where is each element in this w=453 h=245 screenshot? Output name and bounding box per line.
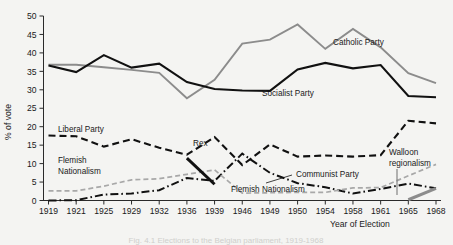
y-tick-label-40: 40 [27,48,37,58]
x-tick-label-1925: 1925 [94,206,113,216]
x-tick-label-1950: 1950 [288,206,307,216]
y-tick-label-50: 50 [27,11,37,21]
x-tick-label-1936: 1936 [177,206,196,216]
x-tick-label-1965: 1965 [399,206,418,216]
x-tick-label-1968: 1968 [426,206,445,216]
y-tick-label-45: 45 [27,30,37,40]
x-tick-label-1958: 1958 [343,206,362,216]
y-tick-label-5: 5 [32,177,37,187]
y-tick-label-20: 20 [27,122,37,132]
y-tick-label-0: 0 [32,196,37,206]
x-tick-label-1921: 1921 [67,206,86,216]
y-tick-label-25: 25 [27,103,37,113]
x-tick-label-1919: 1919 [39,206,58,216]
y-tick-label-10: 10 [27,159,37,169]
y-tick-label-35: 35 [27,67,37,77]
annotation-walloon-line1: Walloon [389,148,419,157]
figure-caption: Fig. 4.1 Elections to the Belgian parlia… [129,236,324,245]
annotation-flemish-nationalism-line1: Flemish [58,156,87,165]
y-tick-label-15: 15 [27,140,37,150]
x-tick-label-1949: 1949 [260,206,279,216]
x-tick-label-1954: 1954 [316,206,335,216]
election-line-chart: 05101520253035404550 1919192119251929193… [0,0,453,245]
x-tick-label-1946: 1946 [233,206,252,216]
x-tick-label-1939: 1939 [205,206,224,216]
y-tick-label-30: 30 [27,85,37,95]
annotation-flemish-nationalism-line2: Nationalism [58,167,101,176]
annotation-communist-party: Communist Party [296,170,360,179]
annotation-rex: Rex [193,139,208,148]
x-axis-tick-labels: 1919192119251929193219361939194619491950… [39,206,446,216]
annotation-catholic-party: Catholic Party [333,38,385,47]
x-axis-title: Year of Election [330,219,390,229]
annotation-liberal-party: Liberal Party [58,125,105,134]
y-axis-title: % of vote [3,104,13,140]
x-tick-label-1929: 1929 [122,206,141,216]
annotation-socialist-party: Socialist Party [262,89,315,98]
annotation-walloon-line2: regionalism [389,159,431,168]
x-tick-label-1961: 1961 [371,206,390,216]
figure-container: 05101520253035404550 1919192119251929193… [0,0,453,245]
annotation-flemish-nationalism-right: Flemish Nationalism [231,185,305,194]
x-tick-label-1932: 1932 [150,206,169,216]
